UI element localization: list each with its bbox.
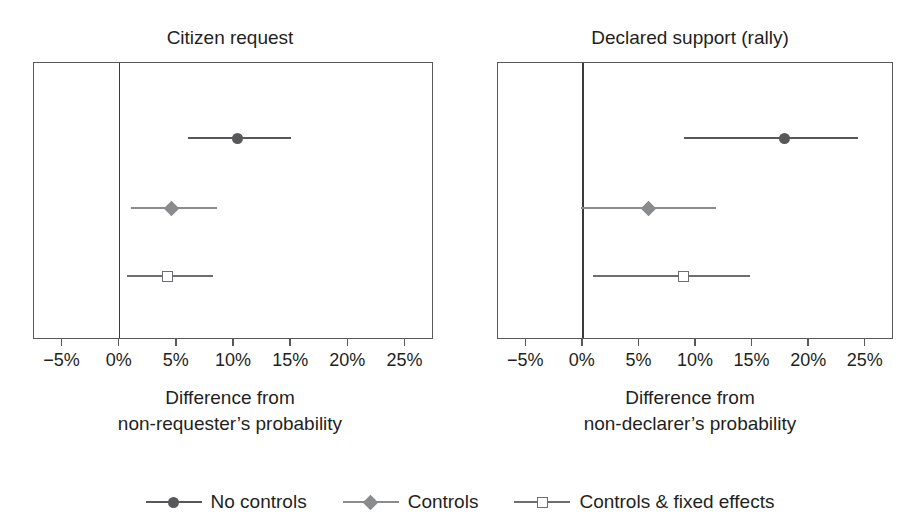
x-axis-tick-label: 0% [106, 349, 132, 371]
confidence-interval-bar [593, 275, 750, 277]
legend-marker-key [146, 494, 202, 510]
marker-filled-circle [779, 133, 790, 144]
panel-citizen-request: Citizen request Difference from non-requ… [0, 0, 460, 470]
marker-open-square [162, 271, 173, 282]
x-axis-tick-mark [807, 339, 808, 346]
chart-legend: No controlsControlsControls & fixed effe… [0, 482, 920, 522]
x-axis-tick-mark [638, 339, 639, 346]
x-axis-tick-label: 25% [386, 349, 422, 371]
x-axis-tick-mark [581, 339, 582, 346]
ci-row [581, 198, 717, 218]
x-axis-tick-label: 0% [569, 349, 595, 371]
axis-caption-line-2: non-declarer’s probability [460, 411, 920, 437]
x-axis-tick-mark [751, 339, 752, 346]
legend-item-label: Controls [408, 490, 479, 514]
x-axis-tick-label: −5% [507, 349, 544, 371]
x-axis-tick-label: 25% [847, 349, 883, 371]
ci-row [188, 128, 291, 148]
marker-filled-diamond [363, 494, 379, 510]
x-axis-tick-label: 20% [329, 349, 365, 371]
legend-item[interactable]: Controls & fixed effects [514, 490, 774, 514]
legend-item-label: Controls & fixed effects [579, 490, 774, 514]
marker-open-square [537, 497, 548, 508]
marker-filled-diamond [163, 200, 179, 216]
x-axis-tick-mark [61, 339, 62, 346]
x-axis-tick-label: 10% [677, 349, 713, 371]
ci-row [131, 198, 217, 218]
axis-caption-line-1: Difference from [0, 385, 460, 411]
x-axis-tick-label: 5% [625, 349, 651, 371]
x-axis-tick-label: 20% [790, 349, 826, 371]
confidence-interval-bar [684, 137, 858, 139]
x-axis-tick-mark [694, 339, 695, 346]
x-axis-tick-mark [347, 339, 348, 346]
axis-caption-line-2: non-requester’s probability [0, 411, 460, 437]
x-axis-tick-mark [404, 339, 405, 346]
marker-open-square [678, 271, 689, 282]
legend-marker-key [514, 494, 570, 510]
x-axis-tick-mark [525, 339, 526, 346]
x-axis-tick-label: 15% [734, 349, 770, 371]
x-axis-tick-mark [175, 339, 176, 346]
x-axis-tick-mark [118, 339, 119, 346]
marker-filled-circle [232, 133, 243, 144]
ci-row [127, 266, 214, 286]
legend-item[interactable]: Controls [343, 490, 479, 514]
marker-filled-circle [168, 497, 179, 508]
panel-right-plot-area [497, 62, 893, 339]
axis-caption-line-1: Difference from [460, 385, 920, 411]
legend-item-label: No controls [211, 490, 307, 514]
panel-right-axis-caption: Difference from non-declarer’s probabili… [460, 385, 920, 437]
ci-row [684, 128, 858, 148]
panel-left-title: Citizen request [0, 26, 460, 50]
x-axis-tick-label: 15% [272, 349, 308, 371]
ci-row [593, 266, 750, 286]
x-axis-tick-label: 10% [215, 349, 251, 371]
panel-left-plot-area [33, 62, 433, 339]
coefficient-plot-figure: Citizen request Difference from non-requ… [0, 0, 920, 530]
legend-item[interactable]: No controls [146, 490, 307, 514]
x-axis-tick-label: 5% [163, 349, 189, 371]
zero-reference-line [119, 63, 121, 338]
marker-filled-diamond [641, 200, 657, 216]
panel-left-axis-caption: Difference from non-requester’s probabil… [0, 385, 460, 437]
panel-declared-support: Declared support (rally) Difference from… [460, 0, 920, 470]
x-axis-tick-mark [232, 339, 233, 346]
panel-right-title: Declared support (rally) [460, 26, 920, 50]
x-axis-tick-mark [864, 339, 865, 346]
legend-marker-key [343, 494, 399, 510]
x-axis-tick-mark [289, 339, 290, 346]
x-axis-tick-label: −5% [43, 349, 80, 371]
